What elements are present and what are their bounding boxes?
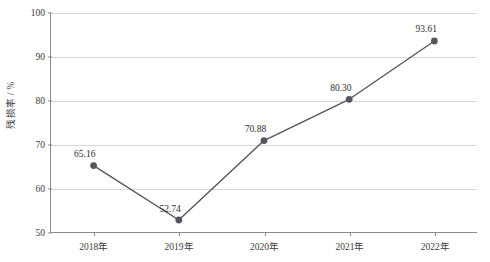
- plot-area: 5060708090100 2018年2019年2020年2021年2022年 …: [50, 13, 477, 233]
- data-point-label: 80.30: [330, 83, 351, 93]
- y-tick-label: 70: [36, 140, 46, 150]
- data-point-marker: [346, 96, 353, 103]
- data-point-marker: [261, 137, 268, 144]
- y-tick-mark: [48, 233, 52, 234]
- series-line-layer: [51, 13, 477, 232]
- x-tick-label: 2022年: [421, 239, 450, 253]
- y-axis-title: 残损率 / %: [3, 73, 17, 137]
- data-point-marker: [90, 162, 97, 169]
- x-tick-mark: [94, 232, 95, 236]
- data-point-label: 70.88: [245, 124, 266, 134]
- x-tick-mark: [350, 232, 351, 236]
- y-tick-label: 90: [36, 52, 46, 62]
- x-tick-mark: [435, 232, 436, 236]
- y-tick-label: 50: [36, 228, 46, 238]
- line-chart-figure: 残损率 / % 5060708090100 2018年2019年2020年202…: [0, 0, 490, 262]
- x-tick-label: 2021年: [335, 239, 364, 253]
- x-tick-label: 2018年: [79, 239, 108, 253]
- x-tick-mark: [265, 232, 266, 236]
- data-point-marker: [431, 38, 438, 45]
- x-tick-label: 2020年: [250, 239, 279, 253]
- data-point-label: 93.61: [416, 24, 437, 34]
- data-point-label: 52.74: [159, 204, 180, 214]
- y-tick-label: 100: [31, 8, 45, 18]
- y-tick-label: 80: [36, 96, 46, 106]
- data-point-label: 65.16: [74, 149, 95, 159]
- y-tick-label: 60: [36, 184, 46, 194]
- x-tick-label: 2019年: [165, 239, 194, 253]
- x-tick-mark: [179, 232, 180, 236]
- data-point-marker: [175, 217, 182, 224]
